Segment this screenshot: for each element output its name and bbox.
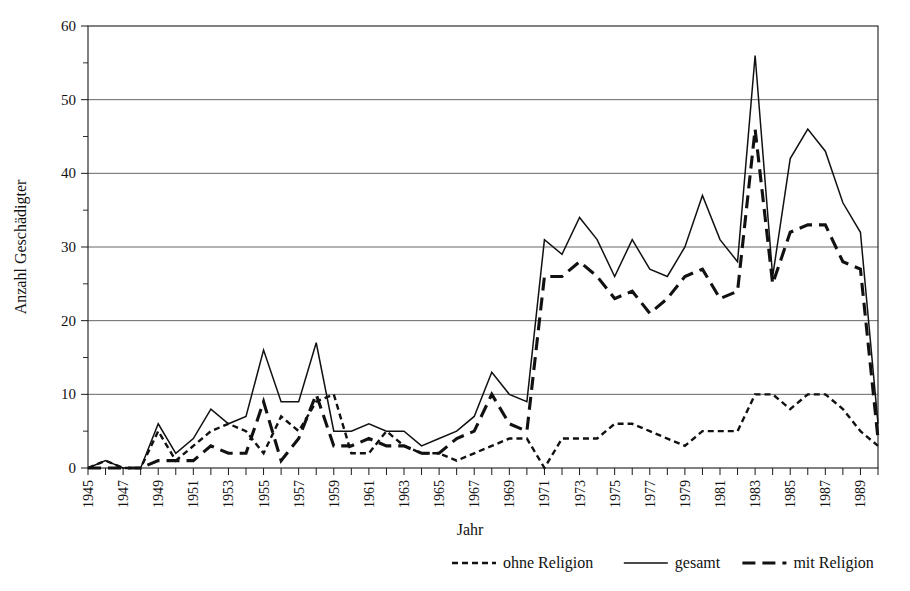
x-tick-label: 1983 <box>748 480 763 508</box>
x-tick-label: 1961 <box>362 480 377 508</box>
y-axis-title: Anzahl Geschädigter <box>12 179 30 314</box>
x-axis-labels-group: 1945194719491951195319551957195919611963… <box>81 480 868 508</box>
x-tick-label: 1967 <box>467 480 482 508</box>
x-tick-label: 1989 <box>853 480 868 508</box>
chart-background <box>0 0 910 591</box>
y-tick-label: 30 <box>61 239 76 255</box>
x-tick-label: 1985 <box>783 480 798 508</box>
x-tick-label: 1981 <box>713 480 728 508</box>
legend-label: mit Religion <box>793 554 873 572</box>
x-tick-label: 1963 <box>397 480 412 508</box>
x-tick-label: 1951 <box>186 480 201 508</box>
x-tick-label: 1949 <box>151 480 166 508</box>
x-tick-label: 1947 <box>116 480 131 508</box>
x-tick-label: 1973 <box>573 480 588 508</box>
x-tick-label: 1977 <box>643 480 658 508</box>
x-tick-label: 1971 <box>537 480 552 508</box>
x-tick-label: 1955 <box>257 480 272 508</box>
y-tick-label: 20 <box>61 313 76 329</box>
x-tick-label: 1987 <box>818 480 833 508</box>
x-axis-title: Jahr <box>457 521 484 538</box>
legend-label: ohne Religion <box>503 554 593 572</box>
y-tick-label: 10 <box>61 386 76 402</box>
legend-label: gesamt <box>675 554 721 572</box>
x-tick-label: 1959 <box>327 480 342 508</box>
x-tick-label: 1957 <box>292 480 307 508</box>
y-tick-label: 50 <box>61 92 76 108</box>
chart-container: 0102030405060 19451947194919511953195519… <box>0 0 910 591</box>
line-chart: 0102030405060 19451947194919511953195519… <box>0 0 910 591</box>
x-tick-label: 1965 <box>432 480 447 508</box>
y-tick-label: 0 <box>69 460 77 476</box>
y-tick-label: 40 <box>61 165 76 181</box>
x-tick-label: 1979 <box>678 480 693 508</box>
x-tick-label: 1945 <box>81 480 96 508</box>
x-tick-label: 1953 <box>221 480 236 508</box>
x-tick-label: 1969 <box>502 480 517 508</box>
x-tick-label: 1975 <box>608 480 623 508</box>
y-tick-label: 60 <box>61 18 76 34</box>
